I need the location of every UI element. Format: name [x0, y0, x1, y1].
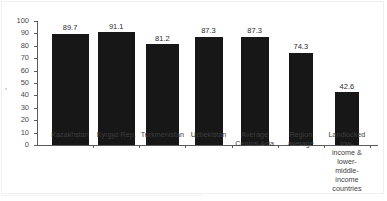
bar-value-label: 87.3	[201, 27, 216, 35]
y-tick-label: 100	[16, 17, 29, 25]
y-tick: 20	[34, 120, 38, 121]
bar-value-label: 91.1	[109, 23, 124, 31]
y-tick-label: 0	[25, 141, 29, 149]
y-tick: 80	[34, 46, 38, 47]
y-tick-label: 40	[21, 92, 29, 100]
x-category-label: Uzbekistan	[185, 130, 231, 139]
y-tick-label: 60	[21, 67, 29, 75]
y-tick-label: 70	[21, 54, 29, 62]
y-tick-label: 20	[21, 116, 29, 124]
x-category-label-line: Central Asia	[232, 139, 278, 148]
x-category-label-line: countries	[324, 184, 370, 193]
y-tick: 100	[34, 21, 38, 22]
x-category-label-line: income & lower-	[324, 148, 370, 166]
bar: 91.1	[98, 32, 135, 145]
y-tick-label: 50	[21, 79, 29, 87]
y-tick-label: 30	[21, 104, 29, 112]
x-category-label-line: Average	[232, 130, 278, 139]
bar-value-label: 87.3	[247, 27, 262, 35]
plot-area: 0102030405060708090100 89.791.181.287.38…	[37, 21, 378, 145]
x-category-label-line: Turkmenistan	[139, 130, 185, 139]
x-category-label-line: Kyrgyz Rep.	[93, 130, 139, 139]
bar: 87.3	[195, 37, 223, 145]
y-tick: 0	[34, 145, 38, 146]
x-category-label: Kazakhstan	[47, 130, 93, 139]
bar: 87.3	[241, 37, 269, 145]
x-category-label-line: middle-income	[324, 166, 370, 184]
x-tick	[185, 145, 186, 148]
bar-value-label: 89.7	[63, 24, 78, 32]
y-tick: 90	[34, 33, 38, 34]
x-category-label-line: Uzbekistan	[185, 130, 231, 139]
x-tick	[93, 145, 94, 148]
y-tick: 60	[34, 71, 38, 72]
y-tick-label: 90	[21, 30, 29, 38]
y-tick: 40	[34, 95, 38, 96]
x-category-label: Landlocked low-income & lower-middle-inc…	[324, 130, 370, 193]
y-tick: 10	[34, 133, 38, 134]
y-tick-label: 10	[21, 129, 29, 137]
x-category-label: Turkmenistan	[139, 130, 185, 139]
y-tick: 70	[34, 58, 38, 59]
bar-chart: 0102030405060708090100 89.791.181.287.38…	[0, 0, 387, 201]
y-tick: 30	[34, 108, 38, 109]
x-tick	[139, 145, 140, 148]
y-tick: 50	[34, 83, 38, 84]
x-tick	[370, 145, 371, 148]
bar-value-label: 81.2	[155, 35, 170, 43]
x-category-label: AverageCentral Asia	[232, 130, 278, 148]
margin-dot	[5, 88, 7, 90]
bar-value-label: 74.3	[293, 43, 308, 51]
figure-bottom-rule	[2, 195, 202, 196]
bar-value-label: 42.6	[340, 83, 355, 91]
x-category-label-line: Region	[278, 130, 324, 139]
bar: 89.7	[52, 34, 89, 145]
x-category-label-line: Kazakhstan	[47, 130, 93, 139]
y-tick-label: 80	[21, 42, 29, 50]
x-category-label-line: average	[278, 139, 324, 148]
x-category-label: Regionaverage	[278, 130, 324, 148]
x-category-label-line: Landlocked low-	[324, 130, 370, 148]
x-category-label: Kyrgyz Rep.	[93, 130, 139, 139]
